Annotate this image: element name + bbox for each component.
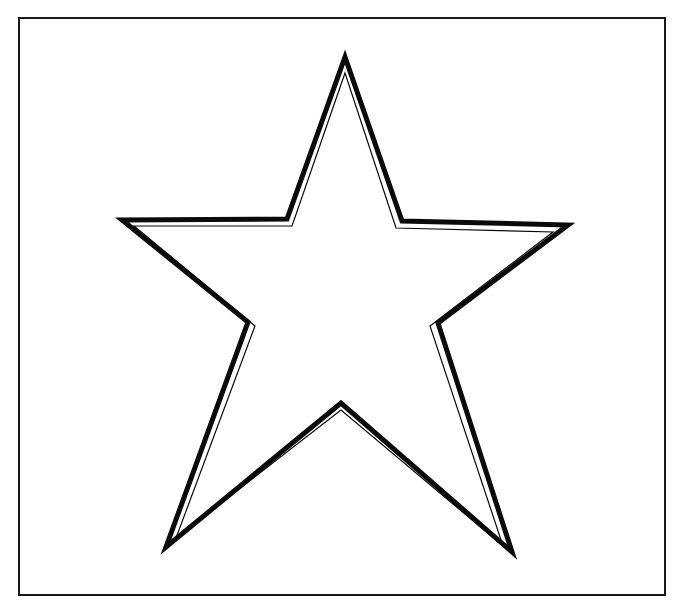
drawing-artboard: [0, 0, 679, 607]
star-drawing-svg: [0, 0, 679, 607]
page-root: [0, 0, 679, 607]
